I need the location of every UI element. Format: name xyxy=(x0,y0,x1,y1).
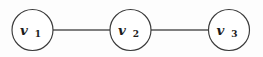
node-subscript-v1: 1 xyxy=(35,29,41,39)
node-label-v2: v xyxy=(118,22,126,38)
graph-node-v2[interactable]: v 2 xyxy=(110,10,151,51)
graph-diagram: v 1 v 2 v 3 xyxy=(0,0,263,57)
graph-node-v1[interactable]: v 1 xyxy=(12,10,53,51)
node-label-v1: v xyxy=(20,22,28,38)
node-circle-v1 xyxy=(12,10,53,51)
node-subscript-v2: 2 xyxy=(133,29,139,39)
node-subscript-v3: 3 xyxy=(231,29,237,39)
node-circle-v3 xyxy=(209,10,250,51)
graph-node-v3[interactable]: v 3 xyxy=(209,10,250,51)
graph-canvas: v 1 v 2 v 3 xyxy=(0,0,263,57)
node-label-v3: v xyxy=(217,22,225,38)
node-circle-v2 xyxy=(110,10,151,51)
